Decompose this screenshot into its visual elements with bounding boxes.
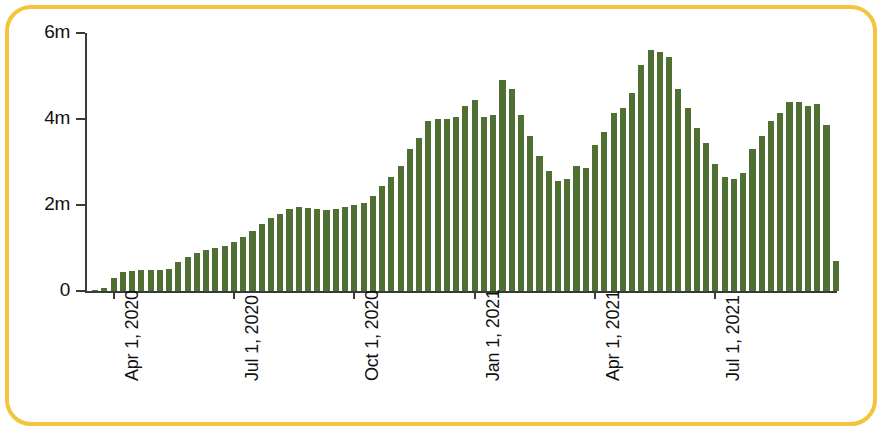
bar [546, 171, 552, 291]
bar [305, 208, 311, 291]
bar [472, 100, 478, 291]
bar [111, 278, 117, 291]
bar [249, 231, 255, 291]
bar [768, 121, 774, 291]
bar [611, 113, 617, 291]
bar [203, 250, 209, 291]
bar [583, 168, 589, 291]
bar [240, 237, 246, 291]
bar [638, 65, 644, 291]
bar [749, 149, 755, 291]
bar [648, 50, 654, 291]
bar [601, 132, 607, 291]
bar [796, 102, 802, 291]
bar [490, 115, 496, 291]
bar [342, 207, 348, 291]
bar [786, 102, 792, 291]
bar [722, 177, 728, 291]
bar-chart: 02m4m6m Apr 1, 2020Jul 1, 2020Oct 1, 202… [0, 0, 888, 433]
bar [379, 186, 385, 291]
bar [120, 272, 126, 291]
bar [148, 270, 154, 291]
bar [185, 257, 191, 291]
bar [629, 93, 635, 291]
bar [518, 115, 524, 291]
bar [259, 224, 265, 291]
bar [333, 209, 339, 291]
bar [388, 177, 394, 291]
bar [138, 270, 144, 291]
bar [555, 181, 561, 291]
bar [222, 246, 228, 291]
bar [740, 173, 746, 291]
bar [823, 125, 829, 291]
bar [833, 261, 839, 291]
bar [175, 262, 181, 291]
bar [685, 108, 691, 291]
bar [212, 248, 218, 291]
bar [462, 106, 468, 291]
bar [194, 253, 200, 291]
bar [453, 117, 459, 291]
bar [536, 156, 542, 291]
bar [731, 179, 737, 291]
bar [814, 104, 820, 291]
bar [157, 270, 163, 292]
bar [268, 218, 274, 291]
bar [805, 106, 811, 291]
bar [777, 113, 783, 291]
bar [444, 119, 450, 291]
bar [370, 196, 376, 291]
bar [694, 128, 700, 291]
bar [703, 143, 709, 291]
bar [759, 136, 765, 291]
bar [296, 207, 302, 291]
bar [231, 242, 237, 291]
bar [398, 166, 404, 291]
bar [407, 149, 413, 291]
bar [657, 52, 663, 291]
bar [509, 89, 515, 291]
bar [620, 108, 626, 291]
bar [166, 269, 172, 291]
bar [435, 119, 441, 291]
bar [527, 136, 533, 291]
bar-series [0, 0, 888, 433]
bar [101, 288, 107, 291]
bar [277, 214, 283, 291]
bar [323, 210, 329, 291]
bar [416, 138, 422, 291]
bar [481, 117, 487, 291]
bar [564, 179, 570, 291]
bar [351, 205, 357, 291]
bar [592, 145, 598, 291]
bar [92, 290, 98, 291]
bar [666, 57, 672, 291]
bar [712, 164, 718, 291]
bar [361, 203, 367, 291]
bar [286, 209, 292, 291]
bar [314, 209, 320, 291]
bar [675, 89, 681, 291]
bar [425, 121, 431, 291]
bar [499, 80, 505, 291]
bar [573, 166, 579, 291]
bar [129, 271, 135, 291]
